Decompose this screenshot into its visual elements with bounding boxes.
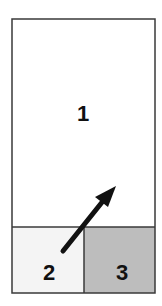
region-2-label: 2 (43, 260, 55, 285)
region-diagram: 1 2 3 (0, 0, 162, 306)
region-3-label: 3 (116, 260, 128, 285)
region-1-label: 1 (77, 101, 89, 126)
